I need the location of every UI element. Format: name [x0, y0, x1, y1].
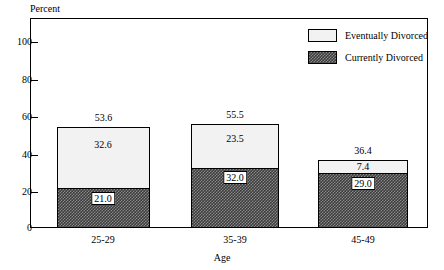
legend-label-eventually-divorced: Eventually Divorced: [345, 30, 428, 41]
bar-total-label-25-29: 53.6: [57, 112, 150, 123]
bar-value-currently-25-29: 21.0: [91, 192, 115, 205]
bar-value-eventually-35-39: 23.5: [226, 133, 244, 144]
y-tick-label-100: 100: [6, 37, 32, 47]
x-axis-title: Age: [0, 252, 444, 263]
y-tick-80: [31, 80, 38, 81]
bar-value-currently-45-49: 29.0: [351, 177, 375, 190]
bar-value-currently-35-39: 32.0: [223, 171, 247, 184]
bar-segment-eventually-divorced: [57, 127, 150, 189]
legend-item-eventually-divorced: Eventually Divorced: [308, 28, 428, 42]
y-tick-40: [31, 155, 38, 156]
bar-value-eventually-45-49: 7.4: [357, 161, 370, 172]
y-tick-100: [31, 42, 38, 43]
y-tick-label-40: 40: [6, 150, 32, 160]
y-tick-label-80: 80: [6, 75, 32, 85]
bar-total-label-35-39: 55.5: [191, 109, 279, 120]
bar-total-label-45-49: 36.4: [318, 145, 408, 156]
legend-item-currently-divorced: Currently Divorced: [308, 50, 428, 64]
legend-label-currently-divorced: Currently Divorced: [345, 52, 423, 63]
bar-value-eventually-25-29: 32.6: [94, 139, 112, 150]
y-tick-label-60: 60: [6, 112, 32, 122]
legend-swatch-currently-divorced-icon: [308, 51, 337, 64]
stacked-bar-chart: Percent 100 80 60 40 20 0 53.6 32.6 21.0…: [0, 0, 444, 270]
y-tick-60: [31, 117, 38, 118]
y-tick-label-0: 0: [6, 223, 32, 233]
y-axis-caption: Percent: [30, 3, 60, 15]
y-tick-label-20: 20: [6, 187, 32, 197]
x-tick-label-25-29: 25-29: [91, 234, 114, 245]
x-tick-label-35-39: 35-39: [223, 234, 246, 245]
x-tick-label-45-49: 45-49: [351, 234, 374, 245]
chart-legend: Eventually Divorced Currently Divorced: [308, 28, 428, 72]
bar-segment-eventually-divorced: [191, 124, 279, 169]
y-tick-20: [31, 192, 38, 193]
legend-swatch-eventually-divorced-icon: [308, 29, 337, 42]
